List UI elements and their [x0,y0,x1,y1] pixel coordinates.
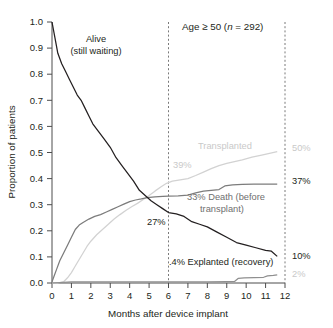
x-axis-title: Months after device implant [108,308,228,319]
svg-text:Age ≥ 50 (n = 292): Age ≥ 50 (n = 292) [182,21,263,32]
y-tick-4: 0.4 [30,173,43,184]
annotation-alive-line1: Alive [86,34,106,44]
x-tick-4: 4 [127,290,132,301]
annotation-transplanted: Transplanted [198,141,252,151]
x-tick-10: 10 [241,290,252,301]
x-tick-5: 5 [146,290,151,301]
x-tick-8: 8 [205,290,210,301]
x-tick-1: 1 [69,290,74,301]
endpoint-label-alive: 10% [292,251,311,261]
x-tick-9: 9 [224,290,229,301]
y-tick-5: 0.5 [30,147,43,158]
y-axis-ticks [47,22,52,283]
annotation-death-line1: 33% Death (before [187,192,265,202]
annotation-pct-39: 39% [173,160,192,170]
x-tick-11: 11 [261,290,271,301]
x-tick-2: 2 [88,290,93,301]
panel-title-main: Age ≥ 50 ( [182,21,228,32]
y-tick-2: 0.2 [30,225,43,236]
annotation-alive-line2: (still waiting) [70,46,121,56]
survival-curve-chart: 0.0 0.1 0.2 0.3 0.4 0.5 0.6 0.7 0.8 0.9 … [0,0,333,328]
endpoint-label-death: 37% [292,176,311,186]
endpoint-label-explanted: 2% [292,269,305,279]
y-tick-0: 0.0 [30,277,43,288]
y-tick-7: 0.7 [30,95,43,106]
annotation-explanted: .4% Explanted (recovery) [169,257,273,267]
x-axis-tick-labels: 0 1 2 3 4 5 6 7 8 9 10 11 12 [49,290,290,301]
y-tick-6: 0.6 [30,121,43,132]
y-tick-3: 0.3 [30,199,43,210]
chart-figure: 0.0 0.1 0.2 0.3 0.4 0.5 0.6 0.7 0.8 0.9 … [0,0,333,328]
y-tick-10: 1.0 [30,16,43,27]
y-axis-title: Proportion of patients [6,105,17,198]
x-tick-3: 3 [108,290,113,301]
y-tick-1: 0.1 [30,251,43,262]
x-tick-12: 12 [280,290,291,301]
curve-explanted [52,275,277,283]
annotation-death-line2: transplant) [200,204,244,214]
y-tick-8: 0.8 [30,68,43,79]
annotation-pct-27: 27% [147,217,166,227]
x-axis-ticks [52,283,285,288]
x-tick-0: 0 [49,290,54,301]
x-tick-6: 6 [166,290,171,301]
y-axis-tick-labels: 0.0 0.1 0.2 0.3 0.4 0.5 0.6 0.7 0.8 0.9 … [30,16,43,288]
panel-title: Age ≥ 50 (n = 292) [182,21,263,32]
endpoint-label-transplanted: 50% [292,143,311,153]
y-tick-9: 0.9 [30,42,43,53]
x-tick-7: 7 [185,290,190,301]
panel-title-tail: = 292) [233,21,264,32]
